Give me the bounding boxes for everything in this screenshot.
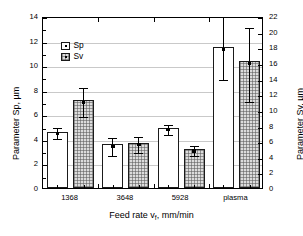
y-tick-right	[258, 96, 262, 97]
data-point-marker	[192, 149, 195, 152]
y-tick-right	[258, 112, 262, 113]
legend: SpSv	[61, 40, 84, 62]
y-tick-label-right: 14	[269, 76, 295, 84]
data-point-marker	[137, 143, 140, 146]
y-tick-label-right: 12	[269, 91, 295, 99]
y-tick-label-right: 6	[269, 138, 295, 146]
legend-marker-dot	[65, 45, 67, 47]
y-tick-label-right: 16	[269, 60, 295, 68]
y-tick-label-right: 20	[269, 29, 295, 37]
error-bar-cap	[108, 138, 117, 139]
y-tick-label-left: 0	[12, 185, 38, 193]
y-tick-label-right: 0	[269, 185, 295, 193]
y-tick-left-minor	[43, 55, 46, 56]
y-tick-right	[258, 128, 262, 129]
x-axis-title-tail: , mm/min	[157, 210, 194, 220]
y-tick-label-right: 2	[269, 170, 295, 178]
error-bar-cap	[190, 146, 199, 147]
y-tick-right	[258, 174, 262, 175]
y-tick-label-left: 14	[12, 13, 38, 21]
error-bar-cap	[134, 153, 143, 154]
error-bar-cap	[164, 135, 173, 136]
legend-label: Sp	[74, 40, 84, 51]
x-tick-minor	[84, 185, 85, 188]
error-bar-cap	[134, 137, 143, 138]
y-tick-left-minor	[43, 153, 46, 154]
y-tick-label-left: 12	[12, 38, 38, 46]
y-tick-right	[258, 49, 262, 50]
legend-swatch-sv	[61, 53, 70, 61]
x-tick-top	[209, 18, 210, 22]
data-point-marker	[248, 62, 251, 65]
y-tick-left-minor	[43, 129, 46, 130]
y-tick-label-right: 18	[269, 44, 295, 52]
legend-item: Sv	[61, 51, 84, 62]
y-tick-label-left: 4	[12, 136, 38, 144]
figure-chart: Parameter Sp, µm Parameter Sv, µm Feed r…	[0, 0, 303, 236]
y-tick-label-left: 10	[12, 62, 38, 70]
error-bar-cap	[219, 80, 228, 81]
y-axis-left-title: Parameter Sp, µm	[11, 87, 21, 160]
x-tick-top	[154, 18, 155, 22]
x-tick-minor	[113, 185, 114, 188]
y-tick-left-minor	[43, 178, 46, 179]
x-tick-minor	[250, 185, 251, 188]
y-tick-right	[258, 65, 262, 66]
error-bar-cap	[108, 156, 117, 157]
legend-label: Sv	[74, 51, 84, 62]
bar	[158, 128, 179, 188]
y-tick-left	[43, 116, 47, 117]
y-tick-right	[258, 159, 262, 160]
error-bar-cap	[245, 102, 254, 103]
x-tick-minor	[139, 185, 140, 188]
y-tick-label-right: 8	[269, 123, 295, 131]
data-point-marker	[222, 48, 225, 51]
error-bar-cap	[190, 156, 199, 157]
data-point-marker	[111, 145, 114, 148]
x-tick	[154, 184, 155, 188]
y-tick-label-right: 10	[269, 107, 295, 115]
x-tick-minor	[57, 185, 58, 188]
plot-area: SpSv	[42, 17, 263, 189]
y-tick-left-minor	[43, 104, 46, 105]
error-bar-cap	[79, 88, 88, 89]
y-axis-right-title: Parameter Sv, µm	[295, 88, 303, 160]
error-bar-cap	[164, 125, 173, 126]
x-axis-title: Feed rate vf, mm/min	[0, 210, 303, 221]
y-tick-right	[258, 143, 262, 144]
error-bar-cap	[79, 117, 88, 118]
legend-swatch-sp	[61, 42, 70, 50]
x-axis-title-main: Feed rate v	[109, 210, 155, 220]
y-tick-right	[258, 34, 262, 35]
data-point-marker	[166, 128, 169, 131]
x-tick-label: plasma	[200, 194, 270, 202]
y-tick-label-left: 8	[12, 87, 38, 95]
error-bar-cap	[245, 28, 254, 29]
error-bar-cap	[53, 128, 62, 129]
x-tick	[209, 184, 210, 188]
legend-marker-dot	[65, 56, 67, 58]
data-point-marker	[82, 101, 85, 104]
y-tick-right	[258, 81, 262, 82]
y-tick-left	[43, 92, 47, 93]
y-tick-left	[43, 67, 47, 68]
y-tick-left	[43, 141, 47, 142]
x-tick-minor	[168, 185, 169, 188]
y-tick-label-right: 4	[269, 154, 295, 162]
error-bar-cap	[53, 139, 62, 140]
y-tick-left	[43, 165, 47, 166]
legend-item: Sp	[61, 40, 84, 51]
x-tick-minor	[194, 185, 195, 188]
y-tick-label-left: 6	[12, 111, 38, 119]
data-point-marker	[56, 132, 59, 135]
y-tick-right	[258, 18, 262, 19]
x-tick-top	[98, 18, 99, 22]
y-tick-left-minor	[43, 30, 46, 31]
y-tick-label-right: 22	[269, 13, 295, 21]
y-tick-left-minor	[43, 79, 46, 80]
y-tick-left	[43, 18, 47, 19]
y-tick-label-left: 2	[12, 161, 38, 169]
x-tick	[98, 184, 99, 188]
x-tick-minor	[223, 185, 224, 188]
y-tick-left	[43, 43, 47, 44]
